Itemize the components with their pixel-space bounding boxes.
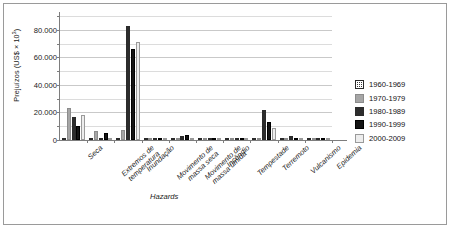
bar [240, 138, 244, 140]
legend-label: 2000-2009 [369, 134, 405, 143]
bar [104, 133, 108, 140]
bar [262, 110, 266, 140]
bar [235, 138, 239, 140]
x-axis-title: Hazards [150, 192, 178, 201]
bar [272, 128, 276, 140]
bar [89, 138, 93, 140]
bar [176, 138, 180, 140]
y-tick-label: 60.000 [34, 53, 57, 62]
bar [312, 138, 316, 140]
legend-label: 1970-1979 [369, 94, 405, 103]
bar [316, 138, 320, 140]
bar [212, 138, 216, 140]
legend-swatch [355, 94, 364, 103]
y-tick-mark [57, 140, 60, 141]
bar-group [87, 16, 114, 140]
bar [299, 138, 303, 140]
legend-label: 1990-1999 [369, 120, 405, 129]
bar [72, 117, 76, 140]
legend-swatch [355, 80, 364, 89]
y-axis-title-exponent: 3 [11, 31, 17, 34]
y-axis-title-tail: ) [12, 29, 21, 32]
bar [158, 138, 162, 140]
bar [326, 138, 330, 140]
bar-group [250, 16, 277, 140]
legend-swatch [355, 120, 364, 129]
x-tick-mark [332, 140, 333, 143]
bar [244, 138, 248, 140]
bar [81, 115, 85, 140]
legend-item: 1960-1969 [355, 78, 405, 91]
x-tick-mark [87, 140, 88, 143]
bar [126, 26, 130, 140]
bar [198, 138, 202, 140]
bar [289, 136, 293, 140]
bar-group [114, 16, 141, 140]
bar [208, 138, 212, 140]
bar [225, 138, 229, 140]
bar-group [196, 16, 223, 140]
bar [203, 138, 207, 140]
bar [180, 136, 184, 140]
plot-area: 020.00040.00060.00080.000 SecaExtremos d… [60, 16, 332, 140]
bar [62, 138, 66, 140]
bar [185, 135, 189, 140]
bar [131, 49, 135, 140]
bar [252, 138, 256, 140]
bar [321, 138, 325, 140]
bar [136, 42, 140, 140]
bar-group [223, 16, 250, 140]
bar [67, 108, 71, 140]
chart-figure: Prejuízos (US$ × 103) 020.00040.00060.00… [0, 0, 450, 228]
y-tick-label: 40.000 [34, 80, 57, 89]
x-tick-mark [114, 140, 115, 143]
bar [108, 138, 112, 140]
legend-item: 1980-1989 [355, 105, 405, 118]
bar [217, 138, 221, 140]
x-tick-mark [278, 140, 279, 143]
bar-group [169, 16, 196, 140]
x-tick-mark [142, 140, 143, 143]
legend: 1960-19691970-19791980-19891990-19992000… [355, 78, 405, 145]
bar [76, 126, 80, 140]
bar-group [60, 16, 87, 140]
bar [148, 138, 152, 140]
bar-group [305, 16, 332, 140]
bar [267, 122, 271, 140]
x-tick-mark [223, 140, 224, 143]
x-axis-line [59, 140, 347, 141]
legend-label: 1980-1989 [369, 107, 405, 116]
legend-swatch [355, 134, 364, 143]
y-axis-title: Prejuízos (US$ × 103) [11, 5, 21, 125]
bar [144, 138, 148, 140]
bar [294, 138, 298, 140]
bar-group [142, 16, 169, 140]
bar [116, 138, 120, 140]
bar [257, 138, 261, 140]
bar [307, 138, 311, 140]
bar [171, 138, 175, 140]
x-tick-mark [169, 140, 170, 143]
bar [121, 130, 125, 140]
x-tick-mark [196, 140, 197, 143]
x-tick-mark [250, 140, 251, 143]
bar [99, 138, 103, 140]
bar-group [278, 16, 305, 140]
legend-item: 2000-2009 [355, 132, 405, 145]
bar [94, 131, 98, 140]
legend-item: 1990-1999 [355, 118, 405, 131]
bar [163, 138, 167, 140]
y-tick-label: 80.000 [34, 25, 57, 34]
bar [230, 138, 234, 140]
bar [190, 138, 194, 140]
x-tick-mark [305, 140, 306, 143]
legend-swatch [355, 107, 364, 116]
bar [280, 138, 284, 140]
legend-item: 1970-1979 [355, 91, 405, 104]
legend-label: 1960-1969 [369, 80, 405, 89]
y-axis-title-base: Prejuízos (US$ × 10 [12, 34, 21, 101]
bar [284, 138, 288, 140]
bar [153, 138, 157, 140]
y-tick-label: 20.000 [34, 108, 57, 117]
